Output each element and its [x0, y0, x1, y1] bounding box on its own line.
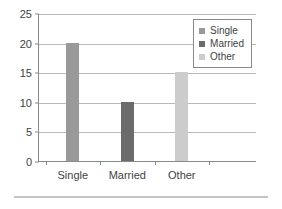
y-tick-label: 25 [20, 9, 32, 20]
legend-label: Single [210, 26, 238, 36]
y-tick-label: 0 [26, 157, 32, 168]
x-tick-label-married: Married [109, 169, 146, 181]
legend-item-married: Married [199, 37, 244, 50]
x-tick-label-single: Single [57, 169, 88, 181]
legend-label: Other [210, 52, 235, 62]
legend-label: Married [210, 39, 244, 49]
bar-married [121, 102, 134, 161]
x-tick-mark [46, 161, 47, 165]
x-tick-mark [155, 161, 156, 165]
plot-area: 0510152025 SingleMarriedOther SingleMarr… [38, 14, 256, 162]
bar-other [175, 72, 188, 161]
legend-swatch-icon [199, 54, 205, 60]
y-tick-label: 20 [20, 38, 32, 49]
legend-swatch-icon [199, 41, 205, 47]
bottom-divider-rule [14, 196, 268, 198]
legend-item-other: Other [199, 50, 244, 63]
y-tick-label: 10 [20, 97, 32, 108]
legend-item-single: Single [199, 24, 244, 37]
chart-legend: SingleMarriedOther [193, 19, 252, 68]
y-tick-mark [35, 162, 39, 163]
x-tick-mark [100, 161, 101, 165]
y-tick-label: 5 [26, 127, 32, 138]
legend-swatch-icon [199, 28, 205, 34]
x-tick-label-other: Other [168, 169, 196, 181]
bar-chart-figure: 0510152025 SingleMarriedOther SingleMarr… [0, 0, 282, 209]
bar-single [66, 43, 79, 161]
y-tick-label: 15 [20, 68, 32, 79]
x-tick-mark [209, 161, 210, 165]
